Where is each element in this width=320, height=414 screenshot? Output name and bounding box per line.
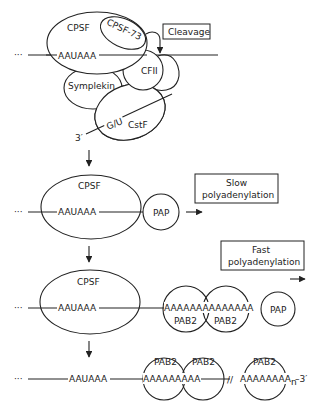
polya-tail-2: AAAAAAAA (240, 374, 292, 384)
left-dots: ··· (14, 50, 23, 60)
pab2-label-3: PAB2 (253, 357, 276, 367)
cleavage-arrow (146, 32, 160, 53)
cstf-label: CstF (128, 120, 148, 130)
pab2-label-2: PAB2 (214, 316, 237, 326)
cleavage-label: Cleavage (168, 27, 210, 37)
cpsf-label: CPSF (78, 181, 101, 191)
left-dots: ··· (14, 207, 23, 217)
signal-aauaaa: AAUAAA (58, 207, 97, 217)
break-mark: // (227, 375, 234, 385)
pab2-label-1: PAB2 (174, 316, 197, 326)
stage-1-cleavage-complex: ··· AAUAAA G/U 3′ CPSF CPSF-73 CFII Symp… (14, 10, 218, 150)
pab2-label-2: PAB2 (192, 357, 215, 367)
polyadenylation-diagram: ··· AAUAAA G/U 3′ CPSF CPSF-73 CFII Symp… (0, 0, 320, 414)
polya-tail-1: AAAAAAAAA (143, 374, 201, 384)
signal-aauaaa: AAUAAA (58, 51, 97, 61)
pap-label: PAP (270, 305, 287, 315)
three-prime-label: 3′ (75, 133, 83, 143)
signal-aauaaa: AAUAAA (69, 374, 108, 384)
signal-aauaaa: AAUAAA (58, 303, 97, 313)
fast-label-line2: polyadenylation (228, 257, 300, 267)
cfii-label: CFII (141, 66, 158, 76)
stage-4-final-polya: ··· AAUAAA AAAAAAAAA PAB2 PAB2 PAB2 // A… (14, 357, 307, 400)
slow-label-line2: polyadenylation (202, 190, 274, 200)
stage-2-slow-polyadenylation: ··· AAUAAA CPSF PAP Slow polyadenylation (14, 174, 278, 239)
left-dots: ··· (14, 303, 23, 313)
three-prime-end: –3′ (295, 374, 307, 384)
stage-3-fast-polyadenylation: ··· AAUAAA CPSF AAAAAAAAAAAAAA PAB2 PAB2… (14, 241, 305, 334)
symplekin-label: Symplekin (68, 81, 115, 91)
left-dots: ··· (14, 374, 23, 384)
pap-label: PAP (153, 208, 170, 218)
cpsf-label: CPSF (67, 23, 90, 33)
cpsf-label: CPSF (77, 277, 100, 287)
polya-tail: AAAAAAAAAAAAAA (164, 303, 254, 313)
fast-label-line1: Fast (252, 245, 271, 255)
slow-label-line1: Slow (226, 178, 247, 188)
pab2-label-1: PAB2 (154, 357, 177, 367)
